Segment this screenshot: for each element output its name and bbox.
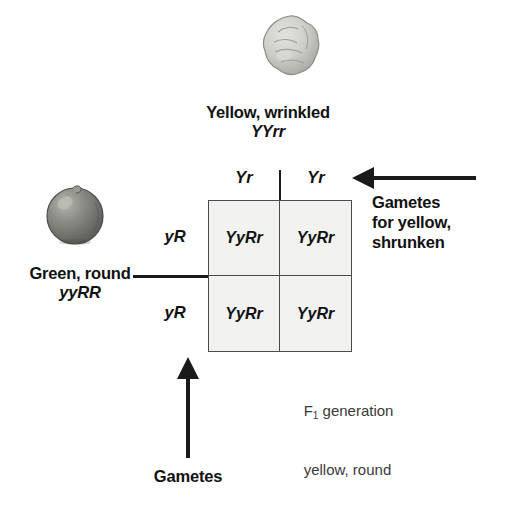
wrinkled-pea-seed-icon: [262, 14, 322, 76]
bottom-gametes-arrow-shaft: [186, 378, 190, 458]
wrinkled-seed-svg: [262, 14, 322, 76]
f1-generation-caption: F1 generation yellow, round: [287, 382, 393, 498]
f1-subscript: 1: [313, 410, 319, 421]
gamete-column-label-1: Yr: [208, 168, 280, 187]
top-parent-genotype-text: YYrr: [251, 122, 285, 140]
punnett-cell: YyRr: [209, 276, 280, 351]
bottom-gametes-label: Gametes: [108, 466, 268, 486]
f1-suffix: generation: [318, 402, 393, 419]
right-gametes-arrow-head-icon: [352, 167, 374, 189]
f1-prefix: F: [304, 402, 313, 419]
gamete-column-label-2: Yr: [280, 168, 352, 187]
left-parent-genotype: yyRR: [0, 283, 160, 302]
punnett-square-diagram: Yellow, wrinkled YYrr Green, round yyRR: [0, 0, 505, 506]
punnett-cell: YyRr: [280, 276, 351, 351]
bottom-gametes-arrow-head-icon: [177, 357, 199, 379]
gamete-row-label-2: yR: [152, 303, 198, 322]
punnett-cell: YyRr: [280, 201, 351, 276]
top-parent-phenotype: Yellow, wrinkled: [148, 102, 388, 122]
right-gametes-arrow-shaft: [372, 176, 476, 180]
left-parent-genotype-text: yyRR: [59, 283, 100, 301]
top-parent-genotype: YYrr: [148, 122, 388, 141]
left-parent-phenotype: Green, round: [0, 263, 160, 283]
gamete-row-label-1: yR: [152, 227, 198, 246]
round-seed-svg: [44, 182, 106, 246]
left-leader-line: [133, 275, 211, 278]
right-gametes-label: Gametes for yellow, shrunken: [372, 192, 505, 252]
f1-phenotype: yellow, round: [304, 461, 392, 478]
round-pea-seed-icon: [44, 182, 106, 246]
punnett-square-grid: YyRr YyRr YyRr YyRr: [208, 200, 352, 352]
punnett-cell: YyRr: [209, 201, 280, 276]
